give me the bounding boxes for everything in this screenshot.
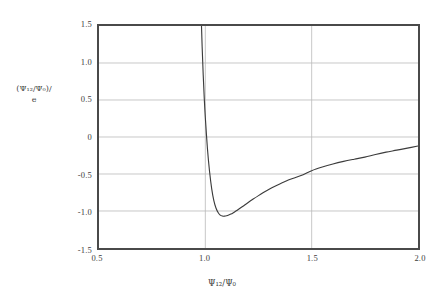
y-tick-label: 0.5 bbox=[52, 95, 92, 104]
x-tick-label: 0.5 bbox=[77, 254, 117, 263]
x-tick-label: 1.0 bbox=[185, 254, 225, 263]
y-tick-label: 1.5 bbox=[52, 20, 92, 29]
y-tick-label: 0 bbox=[52, 133, 92, 142]
curve-path bbox=[197, 26, 418, 216]
x-axis-tick-labels: 0.5 1.0 1.5 2.0 bbox=[0, 254, 444, 266]
y-tick-label: 1.0 bbox=[52, 58, 92, 67]
y-tick-label: -1.0 bbox=[52, 208, 92, 217]
plot-area bbox=[97, 24, 420, 250]
chart-figure: (Ψ₁₂/Ψ₀)/ e 1.5 1.0 0.5 0 -0.5 -1.0 -1.5… bbox=[0, 0, 444, 303]
x-tick-label: 2.0 bbox=[400, 254, 440, 263]
y-tick-label: -0.5 bbox=[52, 171, 92, 180]
x-axis-title: Ψ₁₂/Ψ₀ bbox=[0, 278, 444, 289]
data-series-line bbox=[99, 26, 418, 248]
x-tick-label: 1.5 bbox=[292, 254, 332, 263]
